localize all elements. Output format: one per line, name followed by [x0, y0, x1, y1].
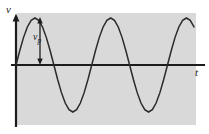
voltage-axis-label: v: [6, 4, 11, 15]
time-axis-label: t: [195, 67, 198, 78]
peak-amplitude-subscript: p: [37, 36, 41, 45]
waveform-figure: v t vp: [0, 0, 209, 134]
peak-amplitude-label: vp: [33, 32, 41, 45]
waveform-diagram: [0, 0, 209, 134]
